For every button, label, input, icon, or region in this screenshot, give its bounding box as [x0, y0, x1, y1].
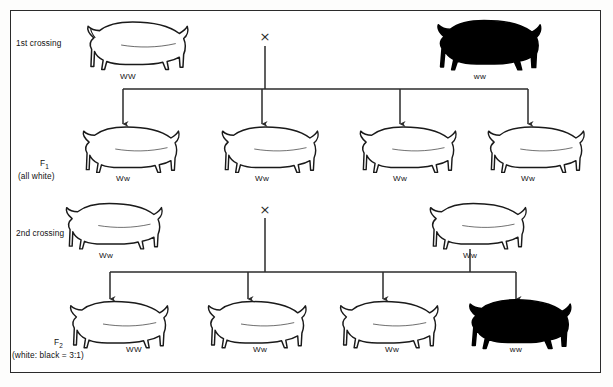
genotype-f1-b: Ww — [255, 174, 269, 183]
pig-outline-icon — [351, 121, 461, 177]
genotype-p1-b: ww — [474, 72, 486, 81]
pig-p2-white-Ww-right — [421, 198, 531, 253]
pig-p1-black-ww — [428, 14, 546, 74]
pig-outline-icon — [479, 121, 589, 177]
cross-symbol-second-crossing: × — [260, 203, 271, 216]
pig-filled-icon — [428, 14, 546, 74]
pig-outline-icon — [199, 296, 311, 352]
stage-label-first-crossing-text: 1st crossing — [16, 38, 61, 48]
pig-f1-2-Ww — [213, 121, 323, 177]
pig-outline-icon — [421, 198, 531, 253]
genotype-f2-a: WW — [126, 345, 142, 354]
pig-f2-2-Ww — [199, 296, 311, 352]
genotype-f2-b: Ww — [253, 345, 267, 354]
genotype-f1-a: Ww — [116, 174, 130, 183]
pig-outline-icon — [61, 296, 173, 352]
diagram-canvas: × × 1st crossing F1 (all white) 2nd cros… — [0, 0, 613, 387]
pig-outline-icon — [331, 296, 443, 352]
pig-outline-icon — [78, 16, 193, 74]
pig-p2-white-Ww-left — [57, 198, 167, 253]
pig-p1-white-WW — [78, 16, 193, 74]
pig-f2-4-ww-black — [460, 294, 576, 352]
genotype-p2-b: Ww — [463, 251, 477, 260]
cross-symbol-first-crossing: × — [260, 30, 271, 43]
pig-f1-1-Ww — [74, 121, 184, 177]
pig-f1-4-Ww — [479, 121, 589, 177]
genotype-f2-c: Ww — [385, 345, 399, 354]
genotype-p2-a: Ww — [99, 251, 113, 260]
pig-f1-3-Ww — [351, 121, 461, 177]
genotype-f1-c: Ww — [393, 174, 407, 183]
genotype-f2-d: ww — [510, 345, 522, 354]
stage-label-first-crossing: 1st crossing — [16, 38, 61, 49]
pig-filled-icon — [460, 294, 576, 352]
genotype-p1-a: WW — [120, 72, 136, 81]
pig-outline-icon — [74, 121, 184, 177]
pig-outline-icon — [213, 121, 323, 177]
genotype-f1-d: Ww — [521, 174, 535, 183]
stage-label-f1: F1 (all white) — [18, 158, 55, 182]
stage-label-f1-sub: 1 — [45, 163, 49, 170]
pig-f2-3-Ww — [331, 296, 443, 352]
pig-f2-1-WW — [61, 296, 173, 352]
stage-label-f1-note: (all white) — [18, 171, 55, 182]
pig-outline-icon — [57, 198, 167, 253]
